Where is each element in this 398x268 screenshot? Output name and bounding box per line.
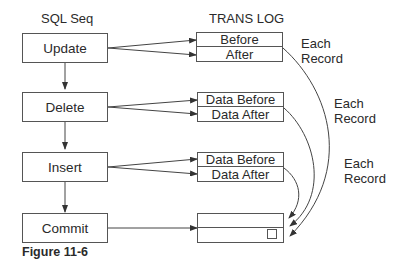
log-after: After xyxy=(197,47,282,61)
trans-log-header: TRANS LOG xyxy=(209,11,284,26)
annotation-line: Each xyxy=(334,96,376,111)
annotation-line: Record xyxy=(301,51,343,66)
annotation-line: Each xyxy=(301,36,343,51)
log-before: Data Before xyxy=(198,93,283,107)
sql-step-update: Update xyxy=(22,33,108,63)
commit-marker-icon xyxy=(267,229,277,239)
log-before: Data Before xyxy=(198,153,283,167)
sql-step-commit: Commit xyxy=(22,213,108,243)
log-entry-commit xyxy=(197,213,284,243)
log-entry-insert: Data Before Data After xyxy=(197,152,284,182)
sql-step-insert: Insert xyxy=(22,152,108,182)
log-after: Data After xyxy=(198,107,283,121)
log-entry-delete: Data Before Data After xyxy=(197,92,284,122)
annotation-line: Record xyxy=(334,111,376,126)
log-after: Data After xyxy=(198,167,283,181)
figure-caption: Figure 11-6 xyxy=(22,245,88,259)
log-commit-top xyxy=(198,214,283,228)
annotation-each-record-1: Each Record xyxy=(301,36,343,66)
sql-seq-header: SQL Seq xyxy=(41,11,93,26)
log-entry-update: Before After xyxy=(196,32,283,62)
annotation-line: Each xyxy=(344,156,386,171)
sql-step-delete: Delete xyxy=(22,92,108,122)
annotation-each-record-3: Each Record xyxy=(344,156,386,186)
log-before: Before xyxy=(197,33,282,47)
annotation-line: Record xyxy=(344,171,386,186)
annotation-each-record-2: Each Record xyxy=(334,96,376,126)
